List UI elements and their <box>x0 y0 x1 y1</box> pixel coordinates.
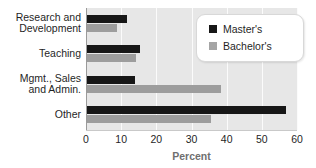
x-tick-30: 30 <box>177 133 207 145</box>
legend-label-masters: Master's <box>223 23 262 35</box>
bar-masters-3 <box>86 106 286 114</box>
category-label-1: Teaching <box>0 48 81 60</box>
category-label-0: Research and Development <box>0 12 81 35</box>
x-tick-0: 0 <box>71 133 101 145</box>
legend: Master's Bachelor's <box>196 14 304 62</box>
legend-swatch-bachelors-icon <box>209 42 217 50</box>
bar-masters-0 <box>86 15 127 23</box>
category-label-2: Mgmt., Sales and Admin. <box>0 73 81 96</box>
x-tick-60: 60 <box>282 133 312 145</box>
legend-item-bachelors: Bachelor's <box>209 39 272 53</box>
bar-masters-1 <box>86 45 140 53</box>
bar-bachelors-0 <box>86 24 117 32</box>
category-label-3: Other <box>0 109 81 121</box>
x-tick-10: 10 <box>106 133 136 145</box>
bar-chart: Research and DevelopmentTeachingMgmt., S… <box>0 0 316 168</box>
chart-title-sliver <box>70 0 220 5</box>
bar-bachelors-2 <box>86 85 221 93</box>
x-tick-50: 50 <box>247 133 277 145</box>
bar-masters-2 <box>86 76 135 84</box>
legend-label-bachelors: Bachelor's <box>223 40 272 52</box>
x-tick-40: 40 <box>212 133 242 145</box>
bar-bachelors-3 <box>86 115 211 123</box>
y-axis-line <box>86 8 87 130</box>
x-axis-line <box>86 130 297 131</box>
x-axis-title: Percent <box>86 150 297 162</box>
bar-bachelors-1 <box>86 54 136 62</box>
x-tick-20: 20 <box>141 133 171 145</box>
legend-item-masters: Master's <box>209 22 262 36</box>
legend-swatch-masters-icon <box>209 25 217 33</box>
